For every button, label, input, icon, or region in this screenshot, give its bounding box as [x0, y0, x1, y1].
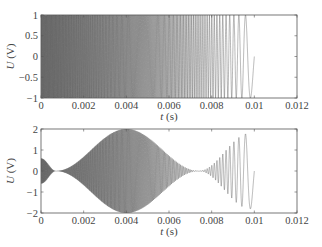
y-tick-label: −2	[27, 208, 38, 219]
x-tick-label: 0.002	[72, 100, 96, 111]
y-tick-label: 1	[33, 145, 38, 156]
y-tick-label: 0.5	[25, 30, 38, 41]
x-tick-label: 0.012	[285, 100, 309, 111]
y-axis-label: U (V)	[4, 158, 17, 184]
x-tick-label: 0.01	[245, 215, 263, 226]
y-tick-label: 1	[33, 10, 38, 21]
x-tick-label: 0.004	[115, 215, 139, 226]
x-tick-label: 0.01	[245, 100, 263, 111]
x-axis-label: t (s)	[160, 110, 178, 123]
x-tick-label: 0.002	[72, 215, 96, 226]
top-plot: 00.0020.0040.0060.0080.010.012−1−0.500.5…	[4, 10, 309, 124]
figure: 00.0020.0040.0060.0080.010.012−1−0.500.5…	[0, 0, 322, 247]
bottom-plot: 00.0020.0040.0060.0080.010.012−2−1012t (…	[4, 124, 309, 239]
x-tick-label: 0.008	[200, 100, 224, 111]
x-tick-label: 0	[38, 100, 43, 111]
y-tick-label: −1	[27, 93, 38, 104]
x-axis-label: t (s)	[160, 225, 178, 238]
y-tick-label: −1	[27, 187, 38, 198]
y-tick-label: 0	[33, 166, 38, 177]
series-line	[41, 15, 254, 98]
x-tick-label: 0.008	[200, 215, 224, 226]
y-tick-label: 2	[33, 124, 38, 135]
x-tick-label: 0.012	[285, 215, 309, 226]
y-tick-label: −0.5	[19, 72, 38, 83]
x-tick-label: 0	[38, 215, 43, 226]
y-tick-label: 0	[33, 51, 38, 62]
y-axis-label: U (V)	[4, 43, 17, 69]
series-line	[41, 129, 254, 213]
x-tick-label: 0.004	[115, 100, 139, 111]
